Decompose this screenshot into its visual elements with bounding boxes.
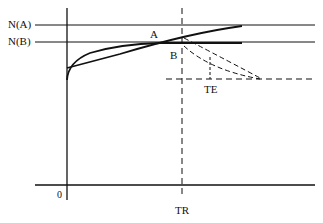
- label-origin: 0: [57, 190, 62, 200]
- label-tr: TR: [175, 205, 189, 216]
- diagram-canvas: [0, 0, 323, 223]
- label-na: N(A): [8, 19, 31, 30]
- decay-curve-upper: [184, 38, 262, 79]
- label-nb: N(B): [8, 36, 31, 47]
- label-b: B: [170, 50, 177, 61]
- label-a: A: [150, 29, 158, 40]
- label-te: TE: [204, 84, 217, 95]
- decay-curve-lower: [184, 46, 260, 79]
